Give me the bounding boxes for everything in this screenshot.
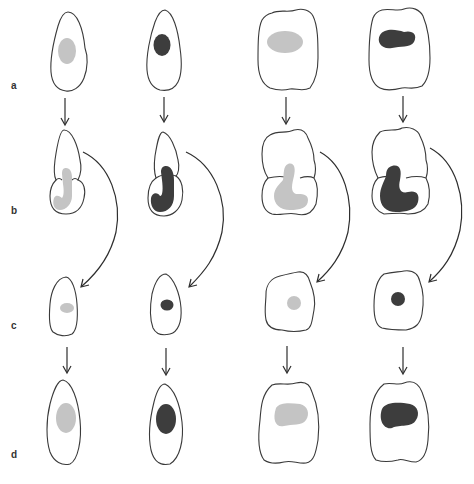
arrow-a-to-b-col4 <box>399 96 407 122</box>
nucleus-dark <box>154 34 171 56</box>
nucleus-dark <box>391 292 405 306</box>
nucleus-light <box>287 296 301 310</box>
nucleus-dark <box>156 404 176 434</box>
row-label-b: b <box>11 205 17 216</box>
cell-c3 <box>265 272 315 332</box>
cell-c1 <box>49 277 77 336</box>
nucleus-light <box>58 38 76 64</box>
nucleus-dark <box>161 300 174 311</box>
arrow-a-to-b-col3 <box>282 97 290 124</box>
row-label-a: a <box>11 80 17 91</box>
cell-c2 <box>151 274 182 335</box>
arrow-c-to-d-col1 <box>63 347 71 373</box>
cell-b1 <box>50 130 85 214</box>
arrow-a-to-b-col2 <box>160 97 168 122</box>
arrow-c-to-d-col3 <box>283 346 291 373</box>
nucleus-light <box>60 303 74 313</box>
cell-division-diagram <box>0 0 474 484</box>
arrow-c-to-d-col4 <box>399 347 407 374</box>
cell-b3 <box>262 129 317 214</box>
cell-b2 <box>148 132 183 216</box>
curved-arrow-b-to-c-col1 <box>81 152 118 287</box>
row-label-d: d <box>11 449 17 460</box>
arrow-a-to-b-col1 <box>61 98 69 125</box>
nucleus-light <box>56 403 76 433</box>
cell-c4 <box>374 271 423 330</box>
curved-arrow-b-to-c-col2 <box>186 152 223 287</box>
cell-a3 <box>258 9 318 90</box>
nucleus-light <box>267 31 303 53</box>
curved-arrow-b-to-c-col4 <box>429 148 462 282</box>
row-label-c: c <box>11 320 17 331</box>
cell-d3 <box>259 382 319 463</box>
cell-d2 <box>150 384 183 464</box>
curved-arrow-b-to-c-col3 <box>317 152 350 282</box>
cell-b4 <box>372 127 429 214</box>
cell-a2 <box>147 10 181 90</box>
arrow-c-to-d-col2 <box>162 348 170 375</box>
cell-d4 <box>370 382 429 462</box>
cell-a4 <box>369 8 430 90</box>
cell-d1 <box>47 380 81 465</box>
cell-a1 <box>51 12 87 91</box>
